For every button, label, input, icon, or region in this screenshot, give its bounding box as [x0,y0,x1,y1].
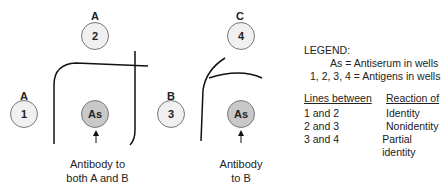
antigen-well-2: 2 [81,22,109,50]
legend-col2-header: Reaction of [386,92,439,105]
legend-col1-header: Lines between [304,92,386,105]
note-left: Antibody toboth A and B [60,157,135,185]
antigen-label-4: C [236,10,244,22]
antigen-well-3: 3 [157,100,185,128]
legend-row-reaction: Partial identity [382,133,445,159]
legend-row-lines: 2 and 3 [304,120,386,133]
legend: LEGEND: As = Antiserum in wells 1, 2, 3,… [304,44,445,159]
legend-row-reaction: Nonidentity [386,120,439,133]
legend-row-lines: 1 and 2 [304,107,386,120]
note-left-line2: both A and B [60,171,135,185]
note-right-line1: Antibody [211,157,271,171]
antiserum-well-right: As [227,100,255,128]
note-right: Antibodyto B [211,157,271,185]
legend-row-reaction: Identity [386,107,420,120]
legend-line1: As = Antiserum in wells [304,57,445,70]
legend-row-lines: 3 and 4 [304,133,382,159]
legend-title: LEGEND: [304,44,445,57]
antigen-well-1: 1 [10,100,38,128]
legend-line2: 1, 2, 3, 4 = Antigens in wells [304,70,445,83]
antigen-label-2: A [91,10,99,22]
antiserum-well-left: As [81,100,109,128]
note-left-line1: Antibody to [60,157,135,171]
antigen-well-4: 4 [227,22,255,50]
note-right-line2: to B [211,171,271,185]
